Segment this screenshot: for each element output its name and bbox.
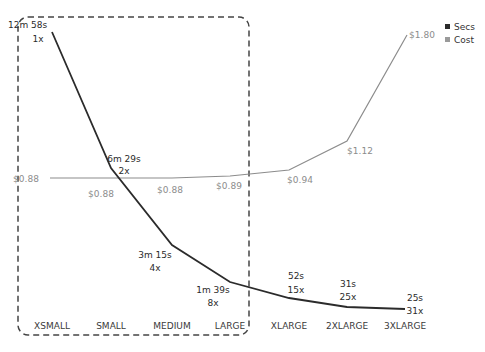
secs-speedup-label: 2x: [118, 166, 130, 176]
secs-time-label: 12m 58s: [8, 20, 48, 30]
secs-line: [52, 32, 405, 309]
cost-label: $0.88: [13, 174, 39, 184]
secs-speedup-label: 8x: [207, 298, 219, 308]
x-axis: XSMALL SMALL MEDIUM LARGE XLARGE 2XLARGE…: [34, 321, 426, 331]
x-tick-label: 2XLARGE: [326, 321, 368, 331]
secs-time-label: 3m 15s: [138, 250, 172, 260]
legend-swatch-cost: [445, 37, 450, 42]
x-tick-label: MEDIUM: [153, 321, 190, 331]
cost-label: $1.12: [347, 146, 373, 156]
legend-label-secs: Secs: [454, 22, 475, 32]
secs-time-label: 52s: [288, 271, 304, 281]
legend-label-cost: Cost: [454, 35, 474, 45]
cost-label: $1.80: [409, 30, 435, 40]
x-tick-label: SMALL: [96, 321, 126, 331]
legend: Secs Cost: [445, 22, 475, 45]
secs-speedup-label: 1x: [32, 34, 44, 44]
chart: 12m 58s 1x 6m 29s 2x 3m 15s 4x 1m 39s 8x…: [0, 0, 485, 352]
cost-line: [50, 35, 407, 178]
cost-labels: $0.88 $0.88 $0.88 $0.89 $0.94 $1.12 $1.8…: [13, 30, 435, 199]
cost-label: $0.89: [216, 181, 242, 191]
secs-time-label: 25s: [407, 293, 423, 303]
legend-swatch-secs: [445, 24, 450, 29]
secs-time-label: 31s: [340, 279, 356, 289]
secs-speedup-label: 4x: [149, 263, 161, 273]
x-tick-label: XSMALL: [34, 321, 70, 331]
secs-speedup-label: 15x: [288, 285, 305, 295]
secs-speedup-label: 25x: [340, 292, 357, 302]
cost-label: $0.88: [157, 185, 183, 195]
cost-label: $0.94: [287, 175, 313, 185]
x-tick-label: XLARGE: [271, 321, 308, 331]
secs-time-label: 1m 39s: [196, 285, 230, 295]
x-tick-label: LARGE: [215, 321, 246, 331]
cost-label: $0.88: [88, 189, 114, 199]
secs-time-label: 6m 29s: [107, 154, 141, 164]
secs-speedup-label: 31x: [407, 306, 424, 316]
x-tick-label: 3XLARGE: [384, 321, 426, 331]
secs-labels: 12m 58s 1x 6m 29s 2x 3m 15s 4x 1m 39s 8x…: [8, 20, 424, 316]
